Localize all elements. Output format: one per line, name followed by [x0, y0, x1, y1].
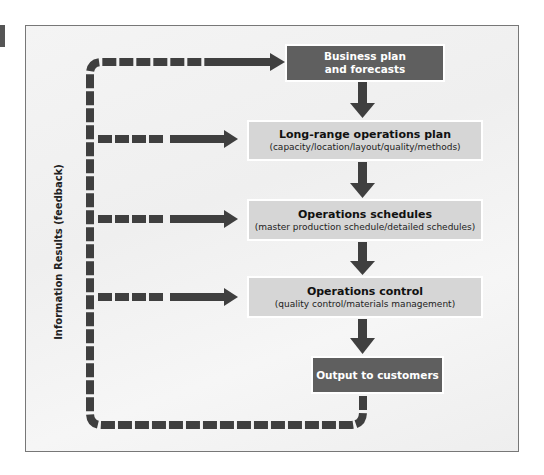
node-title: Operations schedules: [298, 208, 432, 221]
node-subtitle: (capacity/location/layout/quality/method…: [269, 141, 460, 153]
node-title: Long-range operations plan: [279, 128, 451, 141]
node-operations-schedules: Operations schedules (master production …: [247, 199, 483, 241]
node-operations-control: Operations control (quality control/mate…: [247, 276, 483, 318]
arrow-down-icon: [350, 242, 375, 275]
node-business-plan-line2: and forecasts: [325, 63, 406, 76]
arrow-down-icon: [350, 82, 375, 118]
node-title: Operations control: [307, 285, 423, 298]
node-business-plan-line1: Business plan: [324, 50, 406, 63]
arrow-down-icon: [350, 319, 375, 354]
node-business-plan: Business plan and forecasts: [285, 44, 445, 82]
node-title: Output to customers: [316, 369, 439, 382]
node-long-range-plan: Long-range operations plan (capacity/loc…: [247, 120, 483, 161]
node-subtitle: (quality control/materials management): [275, 298, 455, 310]
feedback-label: Information Results (feedback): [53, 164, 64, 340]
node-output-to-customers: Output to customers: [311, 356, 444, 394]
node-subtitle: (master production schedule/detailed sch…: [255, 221, 476, 233]
arrow-down-icon: [350, 162, 375, 198]
